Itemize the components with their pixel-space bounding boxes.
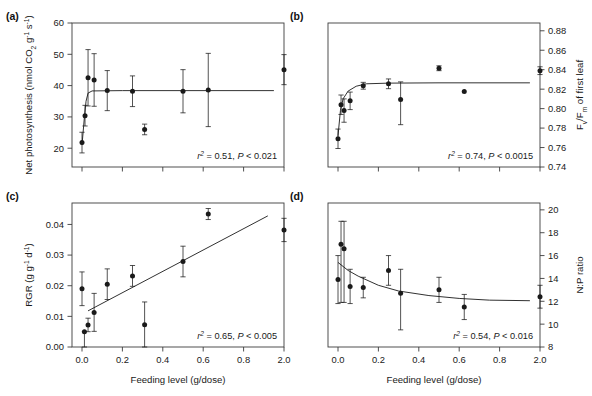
y-tick-label: 0.01 — [46, 311, 64, 322]
y-tick-label: 20 — [548, 204, 558, 215]
y-tick-label: 0.76 — [548, 142, 566, 153]
x-tick-label: 0.4 — [156, 354, 169, 365]
data-point — [86, 322, 91, 327]
y-tick-label: 0.78 — [548, 122, 566, 133]
y-axis-title-d: N:P ratio — [574, 256, 585, 293]
y-tick-label: 0.00 — [46, 341, 64, 352]
data-point — [105, 88, 110, 93]
data-point — [83, 113, 88, 118]
data-point — [386, 268, 391, 273]
x-tick-label: 0.6 — [197, 354, 210, 365]
stat-annotation-c: r2 = 0.65, P < 0.005 — [197, 330, 277, 342]
data-series-b — [335, 66, 542, 149]
fit-curve-c — [88, 216, 268, 311]
stat-annotation-a: r2 = 0.51, P < 0.021 — [197, 150, 277, 162]
data-point — [538, 294, 543, 299]
data-point — [398, 97, 403, 102]
data-point — [348, 98, 353, 103]
panel-b: 0.740.760.780.800.820.840.860.88r2 = 0.7… — [270, 9, 592, 213]
y-tick-label: 0.03 — [46, 249, 64, 260]
data-point — [538, 68, 543, 73]
y-tick-label: 30 — [54, 111, 64, 122]
stat-annotation-d: r2 = 0.54, P < 0.016 — [453, 330, 533, 342]
x-tick-label: 0.2 — [116, 354, 129, 365]
y-tick-label: 0.04 — [46, 219, 64, 230]
y-tick-label: 0.80 — [548, 103, 566, 114]
data-point — [92, 77, 97, 82]
y-tick-label: 0.88 — [548, 25, 566, 36]
panel-d: 0.00.20.40.60.82.08101214161820r2 = 0.54… — [270, 189, 592, 393]
y-tick-label: 0.02 — [46, 280, 64, 291]
data-point — [462, 89, 467, 94]
y-tick-label: 18 — [548, 227, 558, 238]
data-point — [386, 81, 391, 86]
data-point — [105, 282, 110, 287]
y-axis-title-a: Net photosynthesis (nmol CO2 g-1 s-1) — [23, 15, 37, 174]
y-tick-label: 16 — [548, 250, 558, 261]
data-point — [206, 87, 211, 92]
data-point — [142, 127, 147, 132]
x-tick-label: 0.8 — [493, 354, 506, 365]
x-tick-label: 0.6 — [453, 354, 466, 365]
x-tick-label: 0.0 — [331, 354, 344, 365]
stat-annotation-b: r2 = 0.74, P < 0.0015 — [448, 150, 533, 162]
x-axis-title-d: Feeding level (g/dose) — [387, 374, 482, 385]
panel-b-plot: 0.740.760.780.800.820.840.860.88r2 = 0.7… — [270, 9, 592, 213]
y-tick-label: 20 — [54, 143, 64, 154]
y-tick-label: 10 — [548, 319, 558, 330]
data-point — [342, 246, 347, 251]
data-point — [398, 291, 403, 296]
y-axis-title-c: RGR (g g-1 d-1) — [23, 243, 35, 307]
y-axis-title-b: Fv/Fm of first leaf — [574, 60, 588, 130]
x-axis-title-c: Feeding level (g/dose) — [131, 374, 226, 385]
y-tick-label: 12 — [548, 296, 558, 307]
fit-curve-b — [338, 83, 530, 136]
data-point — [339, 102, 344, 107]
x-tick-label: 0.2 — [372, 354, 385, 365]
panel-d-plot: 0.00.20.40.60.82.08101214161820r2 = 0.54… — [270, 189, 592, 393]
y-tick-label: 60 — [54, 17, 64, 28]
data-point — [142, 322, 147, 327]
data-series-d — [335, 221, 542, 330]
fit-curve-d — [338, 262, 530, 300]
y-tick-label: 50 — [54, 49, 64, 60]
data-point — [437, 66, 442, 71]
data-point — [437, 287, 442, 292]
y-tick-label: 8 — [548, 341, 553, 352]
x-tick-label: 2.0 — [533, 354, 546, 365]
data-series-a — [79, 50, 286, 153]
data-point — [361, 83, 366, 88]
data-point — [348, 284, 353, 289]
x-tick-label: 0.8 — [237, 354, 250, 365]
y-tick-label: 40 — [54, 80, 64, 91]
data-point — [92, 310, 97, 315]
data-point — [336, 277, 341, 282]
data-point — [86, 75, 91, 80]
data-point — [462, 305, 467, 310]
y-tick-label: 0.84 — [548, 64, 566, 75]
data-point — [361, 285, 366, 290]
data-point — [80, 286, 85, 291]
data-point — [130, 89, 135, 94]
x-tick-label: 0.4 — [412, 354, 425, 365]
data-point — [206, 212, 211, 217]
y-tick-label: 0.74 — [548, 161, 566, 172]
data-point — [181, 259, 186, 264]
y-tick-label: 0.86 — [548, 45, 566, 56]
data-point — [342, 108, 347, 113]
fit-curve-a — [82, 91, 274, 145]
data-point — [130, 273, 135, 278]
data-point — [339, 242, 344, 247]
x-tick-label: 0.0 — [75, 354, 88, 365]
data-point — [336, 136, 341, 141]
y-tick-label: 0.82 — [548, 84, 566, 95]
data-point — [181, 89, 186, 94]
data-series-c — [79, 209, 286, 347]
data-point — [80, 140, 85, 145]
y-tick-label: 14 — [548, 273, 558, 284]
